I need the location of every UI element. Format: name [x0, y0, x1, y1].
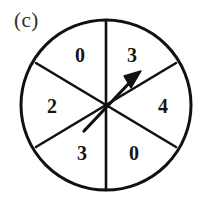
sector-value-top-right: 3 [127, 45, 137, 65]
sector-value-top-left: 0 [75, 45, 85, 65]
sector-value-right: 4 [158, 96, 168, 116]
sector-value-bottom-left: 3 [77, 143, 87, 163]
part-label: (c) [14, 10, 39, 31]
sector-value-bottom-right: 0 [129, 143, 139, 163]
spinner-figure: (c) 0 3 2 4 3 0 [0, 0, 209, 200]
sector-value-left: 2 [47, 96, 57, 116]
